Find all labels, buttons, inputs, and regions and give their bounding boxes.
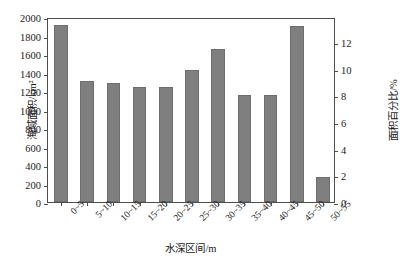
y-tick-label-right: 4 xyxy=(341,145,346,156)
y-tick-mark-right xyxy=(334,71,338,72)
y-tick-label-right: 10 xyxy=(341,65,352,76)
y-tick-mark-left xyxy=(44,93,48,94)
y-tick-label-right: 2 xyxy=(341,172,346,183)
y-tick-label-left: 2000 xyxy=(20,14,41,25)
bars-layer xyxy=(48,19,334,202)
y-tick-mark-right xyxy=(334,177,338,178)
x-tick-mark xyxy=(271,202,272,206)
x-tick-label: 35~40 xyxy=(239,208,263,232)
x-tick-label: 15~20 xyxy=(135,208,159,232)
y-tick-label-left: 600 xyxy=(25,143,41,154)
y-axis-title-right: 面积百分比/% xyxy=(385,79,400,141)
y-tick-mark-left xyxy=(44,75,48,76)
x-tick-mark xyxy=(61,202,62,206)
y-tick-label-right: 6 xyxy=(341,119,346,130)
y-tick-label-right: 12 xyxy=(341,39,352,50)
bar xyxy=(290,26,304,202)
bar xyxy=(211,49,225,202)
bar xyxy=(107,83,121,202)
y-tick-label-left: 400 xyxy=(25,162,41,173)
y-tick-mark-left xyxy=(44,149,48,150)
y-tick-label-left: 1800 xyxy=(20,32,41,43)
x-tick-mark xyxy=(297,202,298,206)
x-tick-label: 10~15 xyxy=(108,208,132,232)
x-tick-mark xyxy=(323,202,324,206)
y-tick-mark-left xyxy=(44,130,48,131)
x-tick-label: 40~45 xyxy=(266,208,290,232)
bar xyxy=(264,95,278,202)
bar xyxy=(133,87,147,202)
x-tick-mark xyxy=(192,202,193,206)
y-tick-label-right: 8 xyxy=(341,92,346,103)
y-tick-label-left: 0 xyxy=(36,199,41,210)
bar xyxy=(159,87,173,202)
plot-area: 0200400600800100012001400160018002000 02… xyxy=(47,18,335,203)
y-tick-mark-left xyxy=(44,186,48,187)
y-tick-mark-right xyxy=(334,44,338,45)
bar xyxy=(316,177,330,202)
x-tick-label: 5~10 xyxy=(83,208,103,228)
y-tick-mark-left xyxy=(44,204,48,205)
y-tick-label-left: 200 xyxy=(25,180,41,191)
y-tick-mark-right xyxy=(334,124,338,125)
x-tick-mark xyxy=(244,202,245,206)
y-axis-title-left: 海域面积/km² xyxy=(24,80,39,139)
bar xyxy=(185,70,199,202)
bar xyxy=(80,81,94,202)
y-tick-mark-left xyxy=(44,112,48,113)
x-tick-mark xyxy=(87,202,88,206)
bar xyxy=(54,25,68,202)
y-tick-label-left: 1400 xyxy=(20,69,41,80)
x-tick-mark xyxy=(166,202,167,206)
bar xyxy=(238,95,252,202)
x-tick-label: 0~5 xyxy=(58,208,75,225)
y-tick-mark-right xyxy=(334,97,338,98)
x-axis-title: 水深区间/m xyxy=(47,240,335,255)
x-tick-mark xyxy=(140,202,141,206)
y-tick-mark-left xyxy=(44,56,48,57)
x-tick-mark xyxy=(218,202,219,206)
y-tick-mark-left xyxy=(44,19,48,20)
y-tick-mark-right xyxy=(334,204,338,205)
y-tick-mark-left xyxy=(44,167,48,168)
x-tick-mark xyxy=(113,202,114,206)
y-tick-mark-right xyxy=(334,151,338,152)
y-tick-label-left: 1600 xyxy=(20,51,41,62)
y-tick-mark-left xyxy=(44,38,48,39)
